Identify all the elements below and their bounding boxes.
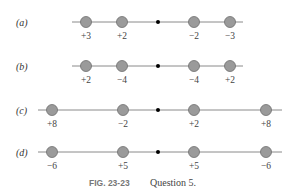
charge-label: +8 xyxy=(261,119,271,129)
charge-label: −6 xyxy=(261,161,271,171)
charged-particle xyxy=(189,17,200,28)
charged-particle xyxy=(117,17,128,28)
charged-particle xyxy=(117,61,128,72)
row-label: (c) xyxy=(16,105,28,117)
center-point xyxy=(156,64,160,68)
row-c: (c) +8 −2 +2 +8 xyxy=(16,105,282,130)
charge-label: +8 xyxy=(47,119,57,129)
caption-label: FIG. 23-23 xyxy=(89,178,130,188)
row-d: (d) −6 +5 +5 −6 xyxy=(16,147,282,172)
charge-arrangement-figure: (a) +3 +2 −2 −3 (b) +2 −4 −4 +2 (c) +8 −… xyxy=(0,0,299,196)
caption-text: Question 5. xyxy=(150,177,196,188)
charge-label: +5 xyxy=(118,161,128,171)
charged-particle xyxy=(225,61,236,72)
charge-label: −4 xyxy=(117,75,127,85)
charge-label: +3 xyxy=(81,31,91,41)
row-label: (a) xyxy=(16,17,28,29)
center-point xyxy=(156,108,160,112)
charged-particle xyxy=(118,147,129,158)
charged-particle xyxy=(261,147,272,158)
center-point xyxy=(156,150,160,154)
charged-particle xyxy=(81,61,92,72)
charged-particle xyxy=(261,105,272,116)
center-point xyxy=(156,20,160,24)
charge-label: −2 xyxy=(189,31,199,41)
charged-particle xyxy=(189,61,200,72)
charged-particle xyxy=(81,17,92,28)
charge-label: +2 xyxy=(189,119,199,129)
charge-label: +5 xyxy=(189,161,199,171)
charge-label: +2 xyxy=(117,31,127,41)
figure-caption: FIG. 23-23 Question 5. xyxy=(89,177,196,188)
charge-label: −4 xyxy=(189,75,199,85)
charged-particle xyxy=(47,147,58,158)
row-label: (b) xyxy=(16,61,28,73)
charged-particle xyxy=(225,17,236,28)
charged-particle xyxy=(47,105,58,116)
charge-label: −6 xyxy=(47,161,57,171)
charged-particle xyxy=(189,105,200,116)
charge-label: −3 xyxy=(225,31,235,41)
row-label: (d) xyxy=(16,147,28,159)
row-b: (b) +2 −4 −4 +2 xyxy=(16,61,243,86)
charge-label: −2 xyxy=(118,119,128,129)
charged-particle xyxy=(118,105,129,116)
row-a: (a) +3 +2 −2 −3 xyxy=(16,17,243,42)
charge-label: +2 xyxy=(81,75,91,85)
charge-label: +2 xyxy=(225,75,235,85)
charged-particle xyxy=(189,147,200,158)
